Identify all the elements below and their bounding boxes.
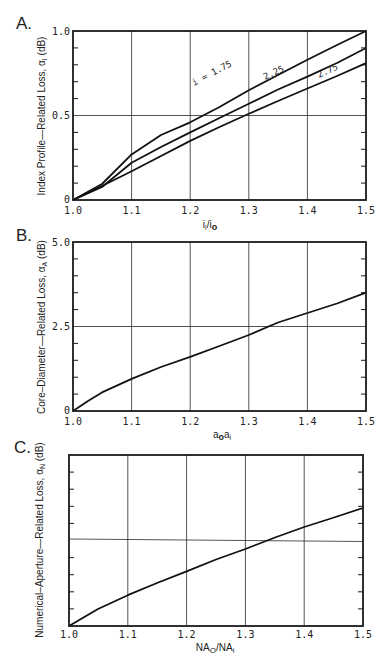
panel-label-a: A. bbox=[16, 14, 32, 33]
chart-b-ytick-2-5: 2.5 bbox=[52, 321, 70, 332]
chart-b-xtick: 1.0 bbox=[64, 416, 82, 427]
panel-label-c: C. bbox=[14, 438, 31, 457]
chart-a-xlabel: ii/io bbox=[203, 219, 218, 232]
chart-c-xtick: 1.2 bbox=[178, 629, 196, 640]
chart-b-xtick: 1.5 bbox=[357, 416, 375, 427]
chart-a-xtick: 1.0 bbox=[64, 205, 82, 216]
chart-b-xtick: 1.1 bbox=[123, 416, 141, 427]
chart-c-xtick: 1.4 bbox=[295, 629, 313, 640]
chart-b-xtick: 1.4 bbox=[298, 416, 316, 427]
chart-c-xtick: 1.1 bbox=[119, 629, 137, 640]
chart-c: C. 1.0 1.1 1.2 1.3 1.4 1.5 NAO/NAi Nu bbox=[14, 438, 372, 655]
curve-core-diameter bbox=[73, 293, 366, 411]
curve-numerical-aperture bbox=[69, 508, 363, 626]
chart-a-ytick-0: 0 bbox=[64, 194, 70, 205]
chart-a-xtick: 1.1 bbox=[123, 205, 141, 216]
chart-b-xlabel: aoai bbox=[213, 429, 232, 442]
chart-a-ylabel: Index Profile—Related Loss, αI (dB) bbox=[36, 37, 48, 196]
chart-b-ytick-5-0: 5.0 bbox=[52, 237, 70, 248]
chart-a-xtick: 1.4 bbox=[298, 205, 316, 216]
chart-a-xtick: 1.2 bbox=[181, 205, 199, 216]
chart-c-xlabel: NAO/NAi bbox=[196, 642, 235, 655]
chart-a-ytick-1-0: 1.0 bbox=[52, 26, 70, 37]
chart-b-ytick-0: 0 bbox=[64, 405, 70, 416]
chart-c-xtick: 1.0 bbox=[60, 629, 78, 640]
panel-label-b: B. bbox=[16, 226, 32, 245]
chart-b: B. 0 2.5 5.0 1.0 1.1 1.2 1.3 1.4 1 bbox=[16, 226, 375, 442]
curve-label-2-25: 2.25 bbox=[262, 64, 286, 82]
chart-b-xtick: 1.2 bbox=[181, 416, 199, 427]
curve-i-2-75 bbox=[73, 63, 366, 200]
chart-a: A. i = 1.75 2.25 2.75 0 0 bbox=[16, 14, 375, 232]
curve-label-1-75: i = 1.75 bbox=[190, 59, 233, 88]
chart-b-ylabel: Core–Diameter—Related Loss, αA (dB) bbox=[36, 240, 48, 414]
chart-a-xtick: 1.5 bbox=[357, 205, 375, 216]
chart-c-xtick: 1.5 bbox=[354, 629, 372, 640]
chart-b-xtick: 1.3 bbox=[240, 416, 258, 427]
chart-c-grid bbox=[69, 455, 363, 626]
figure-canvas: A. i = 1.75 2.25 2.75 0 0 bbox=[0, 0, 386, 662]
chart-a-xtick: 1.3 bbox=[240, 205, 258, 216]
chart-a-ytick-0-5: 0.5 bbox=[52, 110, 70, 121]
chart-c-xtick: 1.3 bbox=[236, 629, 254, 640]
chart-c-ylabel: Numerical–Aperture—Related Loss, αN (dB) bbox=[34, 442, 46, 637]
